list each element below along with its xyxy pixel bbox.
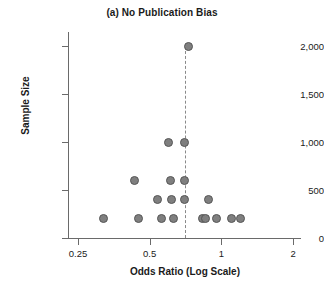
y-axis-tick [62, 142, 68, 143]
data-point [204, 195, 213, 204]
scatter-plot-figure: (a) No Publication Bias 05001,0001,5002,… [0, 0, 324, 302]
data-point [166, 176, 175, 185]
data-point [236, 214, 245, 223]
x-axis-tick-label: 1 [201, 248, 241, 259]
data-point [167, 195, 176, 204]
data-point [212, 214, 221, 223]
data-point [180, 195, 189, 204]
x-axis-line [68, 238, 301, 239]
data-point [201, 214, 210, 223]
y-axis-tick [62, 190, 68, 191]
data-point [180, 138, 189, 147]
data-point [99, 214, 108, 223]
y-axis-tick-label: 1,000 [268, 137, 324, 148]
data-point [157, 214, 166, 223]
y-axis-tick-label: 1,500 [268, 89, 324, 100]
x-axis-label: Odds Ratio (Log Scale) [68, 266, 302, 277]
y-axis-tick-label: 0 [268, 233, 324, 244]
y-axis-line [68, 32, 69, 239]
data-point [134, 214, 143, 223]
x-axis-tick-label: 0.25 [58, 248, 98, 259]
data-point [153, 195, 162, 204]
data-point [180, 176, 189, 185]
data-point [164, 138, 173, 147]
data-point [130, 176, 139, 185]
y-axis-tick [62, 46, 68, 47]
data-point [169, 214, 178, 223]
x-axis-tick [221, 239, 222, 245]
y-axis-tick-label: 500 [268, 185, 324, 196]
data-point [227, 214, 236, 223]
y-axis-tick [62, 94, 68, 95]
y-axis-label: Sample Size [20, 36, 31, 176]
data-point [184, 42, 193, 51]
x-axis-tick-label: 2 [273, 248, 313, 259]
x-axis-tick [150, 239, 151, 245]
x-axis-tick [293, 239, 294, 245]
plot-area: 05001,0001,5002,000 0.250.512 Sample Siz… [0, 0, 324, 302]
y-axis-tick-label: 2,000 [268, 41, 324, 52]
x-axis-tick-label: 0.5 [130, 248, 170, 259]
x-axis-tick [78, 239, 79, 245]
y-axis-tick [62, 238, 68, 239]
